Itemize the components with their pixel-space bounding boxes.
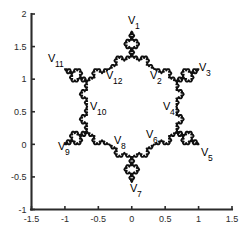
vertex-label-v7: V7 bbox=[130, 182, 142, 199]
x-tick-label: 0 bbox=[129, 214, 134, 224]
x-tick-label: 1.5 bbox=[226, 214, 239, 224]
x-tick-label: -1 bbox=[61, 214, 69, 224]
y-tick-label: 1.5 bbox=[14, 42, 27, 52]
vertex-label-subscript: 2 bbox=[157, 76, 162, 86]
y-tick-label: 0.5 bbox=[14, 107, 27, 117]
figure-root: 21.510.50-0.5-1 -1.5-1-0.500.511.5 V1V2V… bbox=[0, 0, 247, 242]
x-tick-label: 0.5 bbox=[159, 214, 172, 224]
vertex-label-subscript: 11 bbox=[55, 59, 64, 69]
vertex-label-v11: V11 bbox=[48, 52, 64, 69]
y-tick-label: -0.5 bbox=[11, 172, 27, 182]
koch-snowflake-plot: 21.510.50-0.5-1 -1.5-1-0.500.511.5 V1V2V… bbox=[0, 0, 247, 242]
x-tick-label: -1.5 bbox=[24, 214, 40, 224]
x-tick-label: 1 bbox=[196, 214, 201, 224]
vertex-label-subscript: 3 bbox=[206, 68, 211, 78]
x-tick-label: -0.5 bbox=[91, 214, 107, 224]
y-tick-label: 0 bbox=[21, 140, 26, 150]
vertex-label-subscript: 10 bbox=[97, 107, 107, 117]
koch-snowflake-curve bbox=[65, 31, 199, 182]
vertex-label-subscript: 7 bbox=[137, 189, 142, 199]
vertex-label-subscript: 5 bbox=[208, 153, 213, 163]
vertex-label-v6: V6 bbox=[146, 128, 158, 145]
vertex-label-subscript: 12 bbox=[113, 76, 123, 86]
vertex-label-subscript: 4 bbox=[170, 107, 175, 117]
y-tick-label: 1 bbox=[21, 74, 26, 84]
vertex-label-v1: V1 bbox=[128, 14, 140, 31]
x-tick-labels: -1.5-1-0.500.511.5 bbox=[24, 214, 239, 224]
vertex-label-v10: V10 bbox=[90, 100, 107, 117]
y-tick-labels: 21.510.50-0.5-1 bbox=[11, 9, 27, 215]
vertex-label-subscript: 9 bbox=[65, 147, 70, 157]
vertex-labels: V1V2V3V4V5V6V7V8V9V10V11V12 bbox=[48, 14, 213, 199]
vertex-label-v12: V12 bbox=[106, 69, 123, 86]
vertex-label-subscript: 8 bbox=[121, 141, 126, 151]
vertex-label-subscript: 6 bbox=[153, 135, 158, 145]
vertex-label-v3: V3 bbox=[199, 61, 211, 78]
vertex-label-v5: V5 bbox=[201, 146, 213, 163]
y-tick-label: 2 bbox=[21, 9, 26, 19]
vertex-label-subscript: 1 bbox=[135, 21, 140, 31]
vertex-label-v4: V4 bbox=[163, 100, 175, 117]
